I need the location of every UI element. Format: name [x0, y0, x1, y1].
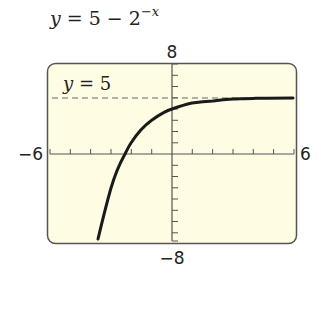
x-min-label: −6	[18, 144, 43, 164]
y-max-label: 8	[167, 42, 178, 62]
plot-svg: y = 5 8 −8 −6 6	[0, 0, 317, 320]
y-min-label: −8	[159, 248, 184, 268]
asymptote-label: y = 5	[62, 73, 111, 94]
x-max-label: 6	[300, 144, 311, 164]
